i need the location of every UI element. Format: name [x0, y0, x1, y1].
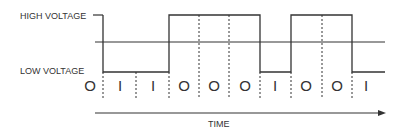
- waveform: [103, 15, 385, 72]
- digital-signal-diagram: HIGH VOLTAGE LOW VOLTAGE O I I O O O I O…: [0, 0, 403, 137]
- bit-5: O: [239, 77, 251, 94]
- low-voltage-label: LOW VOLTAGE: [20, 66, 84, 76]
- high-voltage-label: HIGH VOLTAGE: [20, 11, 86, 21]
- time-label: TIME: [208, 119, 230, 129]
- bit-6: I: [273, 77, 277, 94]
- bit-9: I: [364, 77, 368, 94]
- bit-values: O I I O O O I O O I: [84, 77, 368, 94]
- bit-7: O: [300, 77, 312, 94]
- bit-1: I: [118, 77, 122, 94]
- bit-2: I: [151, 77, 155, 94]
- arrow-head-icon: [378, 110, 386, 116]
- bit-3: O: [178, 77, 190, 94]
- bit-0: O: [84, 77, 96, 94]
- bit-4: O: [208, 77, 220, 94]
- bit-dividers: [103, 15, 352, 98]
- bit-8: O: [331, 77, 343, 94]
